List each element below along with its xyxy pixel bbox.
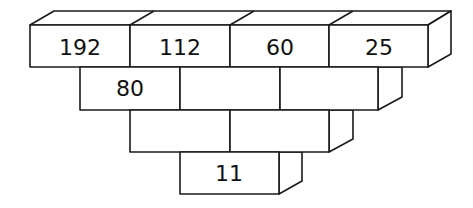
brick-r1-c1-value: 192 (59, 35, 101, 60)
brick-r3-c1 (130, 110, 230, 152)
row-2: 80 (80, 67, 378, 110)
row-2-side-face (378, 67, 402, 110)
brick-r2-c1-value: 80 (116, 76, 144, 101)
brick-pyramid-diagram: 192 112 60 25 80 11 (0, 0, 473, 208)
row-4-side-face (279, 152, 302, 194)
row-3-side-face (329, 110, 353, 152)
row-4: 11 (180, 152, 279, 194)
row-1: 192 112 60 25 (30, 25, 428, 67)
brick-r1-c3-value: 60 (266, 35, 294, 60)
row-3 (130, 110, 329, 152)
brick-r4-c1-value: 11 (215, 161, 243, 186)
brick-r2-c2 (180, 67, 280, 110)
brick-r1-c4-value: 25 (365, 35, 393, 60)
brick-r2-c3 (280, 67, 378, 110)
brick-r3-c2 (230, 110, 329, 152)
brick-r1-c2-value: 112 (159, 35, 201, 60)
